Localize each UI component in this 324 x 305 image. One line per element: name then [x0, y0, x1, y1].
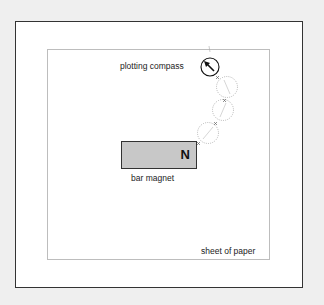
- field-line-trace: [0, 0, 324, 305]
- plotting-compass-label: plotting compass: [120, 61, 184, 71]
- cross-marks: [197, 76, 226, 145]
- sheet-of-paper-label: sheet of paper: [201, 246, 255, 256]
- compass-trace-circles: [198, 77, 238, 144]
- tick-mark: [209, 46, 210, 52]
- plotting-compass-icon: [201, 58, 219, 76]
- bar-magnet-label: bar magnet: [131, 173, 174, 183]
